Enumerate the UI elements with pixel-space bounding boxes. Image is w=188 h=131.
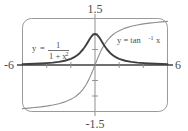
arctan-exponent: -1 (149, 35, 154, 41)
equation-label-arctan: y = tan -1 x (117, 35, 161, 46)
agnesi-numerator: 1 (56, 40, 60, 50)
y-min-label: -1.5 (86, 117, 105, 131)
agnesi-denominator-exponent: 2 (66, 51, 69, 57)
arctan-variable: x (156, 35, 161, 45)
agnesi-y: y (32, 43, 37, 53)
x-min-label: -6 (4, 58, 14, 72)
graph-canvas: 1.5 -1.5 -6 6 y = 1 1 + x 2 y = tan -1 x (0, 0, 188, 131)
math-figure: 1.5 -1.5 -6 6 y = 1 1 + x 2 y = tan -1 x (0, 0, 188, 131)
arctan-lead: y = tan (117, 35, 141, 45)
y-max-label: 1.5 (88, 2, 103, 16)
agnesi-equals: = (40, 43, 45, 53)
equation-label-agnesi: y = 1 1 + x 2 (32, 40, 69, 61)
x-max-label: 6 (175, 58, 181, 72)
